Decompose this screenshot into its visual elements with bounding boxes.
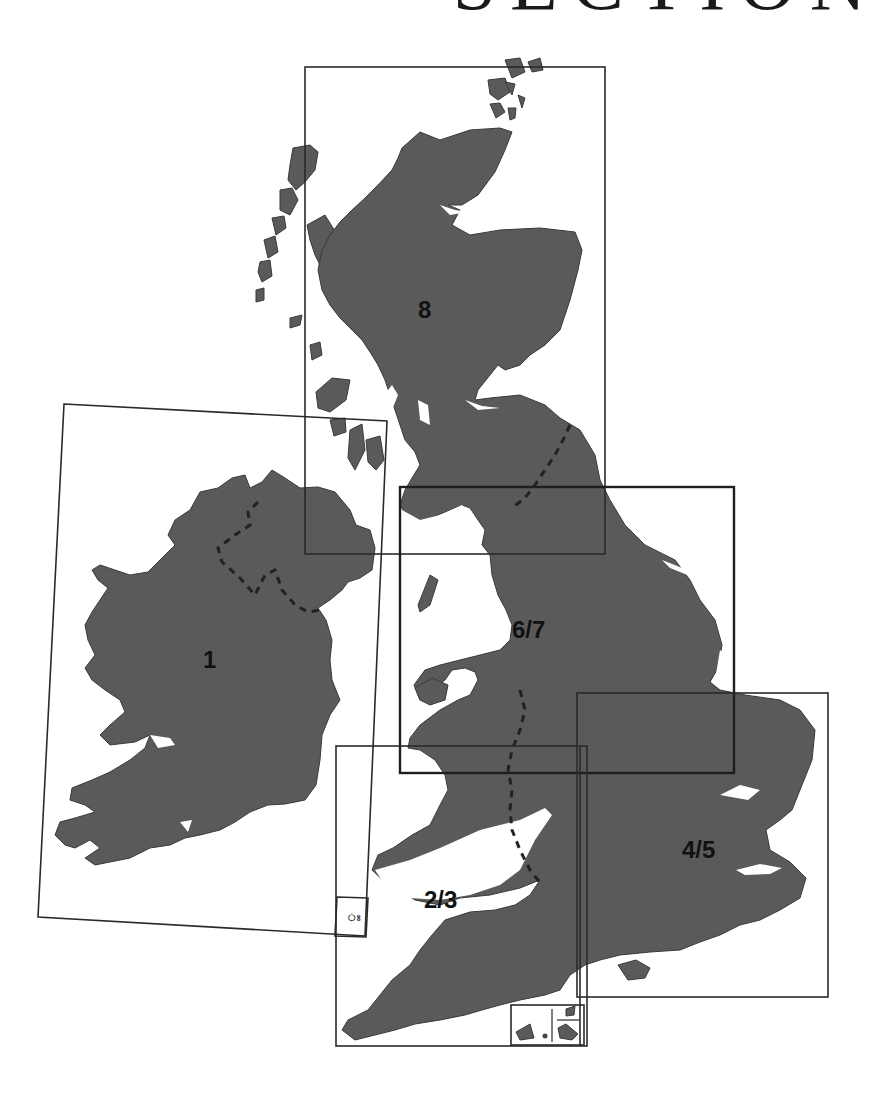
section-label-6-7: 6/7 <box>512 616 545 643</box>
great-britain <box>318 128 815 1040</box>
inset-island-channel-2 <box>558 1024 578 1040</box>
section-label-1: 1 <box>203 646 216 673</box>
isle-of-wight <box>618 960 650 980</box>
section-label-4-5: 4/5 <box>682 836 715 863</box>
isle-of-man <box>418 575 438 612</box>
inset-island-dot <box>543 1034 548 1039</box>
section-label-2-3: 2/3 <box>424 886 457 913</box>
inset-island-scilly <box>516 1024 534 1040</box>
isle-of-man-inset-glyph: ঃ <box>347 912 361 923</box>
inset-island-channel-1 <box>566 1006 575 1016</box>
section-label-8: 8 <box>418 296 431 323</box>
section-index-map: ঃ 8 1 6/7 2/3 4/5 <box>0 0 880 1097</box>
